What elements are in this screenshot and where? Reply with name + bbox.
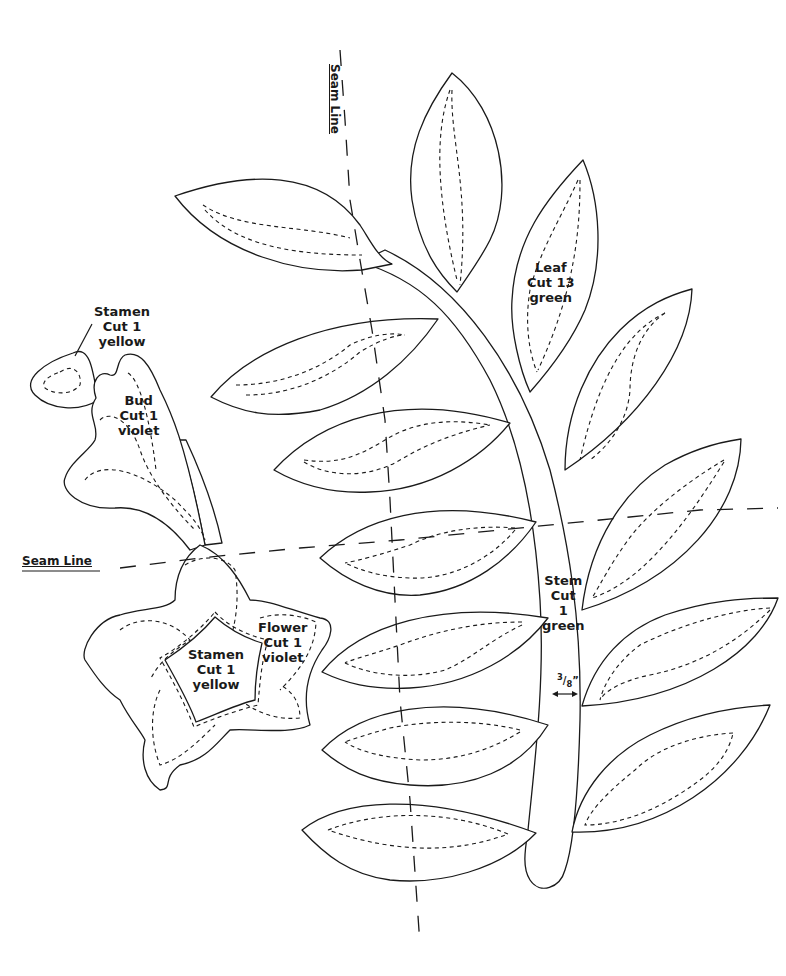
piece-name: Stamen: [94, 304, 150, 319]
bud-label: Bud Cut 1 violet: [118, 393, 159, 438]
leaf-piece-left-5: [322, 707, 548, 786]
stamen-leader-line: [75, 324, 92, 356]
piece-color: yellow: [94, 334, 150, 349]
piece-name: Leaf: [527, 260, 575, 275]
leaf-piece-left-4: [322, 612, 548, 688]
stamen-bud-label: Stamen Cut 1 yellow: [94, 304, 150, 349]
leaf-piece-left-1: [211, 319, 438, 415]
flower-label: Flower Cut 1 violet: [258, 620, 308, 665]
leaf-piece-right-3: [582, 598, 778, 706]
piece-name: Stem: [542, 573, 585, 588]
piece-cut: Cut 13: [527, 275, 575, 290]
stem-width-label: 3/8”: [557, 672, 579, 689]
fraction-numerator: 3: [557, 672, 563, 682]
piece-color: green: [527, 290, 575, 305]
piece-cut: Cut 1: [188, 662, 244, 677]
piece-count: 1: [542, 603, 585, 618]
piece-color: yellow: [188, 677, 244, 692]
stem-label: Stem Cut 1 green: [542, 573, 585, 633]
piece-cut: Cut 1: [118, 408, 159, 423]
applique-pattern-drawing: [0, 0, 786, 976]
piece-name: Flower: [258, 620, 308, 635]
leaf-piece-left-3: [320, 511, 536, 596]
stamen-bud-piece: [30, 351, 98, 407]
piece-color: green: [542, 618, 585, 633]
piece-name: Bud: [118, 393, 159, 408]
seam-line-vertical-label: Seam Line: [328, 64, 342, 134]
piece-cut: Cut 1: [258, 635, 308, 650]
piece-cut: Cut 1: [94, 319, 150, 334]
piece-color: violet: [118, 423, 159, 438]
piece-name: Stamen: [188, 647, 244, 662]
leaf-piece-right-4: [572, 705, 770, 832]
seam-line-horizontal-label: Seam Line: [22, 554, 92, 568]
leaf-piece-top-left: [175, 179, 392, 271]
leaf-piece-top: [411, 73, 502, 292]
stamen-flower-label: Stamen Cut 1 yellow: [188, 647, 244, 692]
inch-mark: ”: [572, 675, 579, 686]
leaf-piece-left-2: [274, 409, 510, 492]
piece-color: violet: [258, 650, 308, 665]
piece-cut: Cut: [542, 588, 585, 603]
leaf-label: Leaf Cut 13 green: [527, 260, 575, 305]
